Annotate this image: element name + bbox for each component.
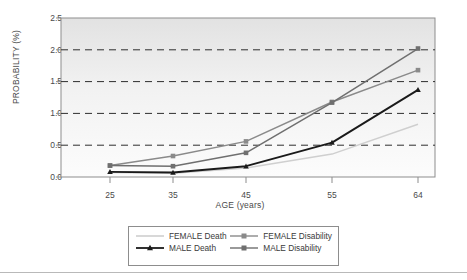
legend-swatch-female-disability (229, 231, 259, 241)
data-point (416, 46, 421, 51)
data-point (330, 100, 335, 105)
data-point (244, 151, 249, 156)
chart-figure: PROBABILITY (%) AGE (years) 2.5 2.0 1.5 … (0, 0, 467, 280)
data-point (416, 68, 421, 73)
data-point (108, 163, 113, 168)
legend-swatch-male-disability (229, 243, 259, 253)
legend-item-female-death: FEMALE Death (135, 231, 229, 241)
legend-swatch-male-death (135, 243, 165, 253)
data-point (244, 139, 249, 144)
bottom-divider (0, 272, 467, 273)
data-point (171, 164, 176, 169)
chart-legend: FEMALE Death FEMALE Disability MALE Deat… (128, 226, 339, 266)
legend-label: FEMALE Death (169, 231, 227, 241)
legend-item-male-death: MALE Death (135, 243, 229, 253)
data-point (171, 154, 176, 159)
legend-label: FEMALE Disability (263, 231, 332, 241)
legend-label: MALE Disability (263, 243, 321, 253)
legend-item-male-disability: MALE Disability (229, 243, 332, 253)
legend-swatch-female-death (135, 231, 165, 241)
legend-item-female-disability: FEMALE Disability (229, 231, 332, 241)
legend-label: MALE Death (169, 243, 216, 253)
